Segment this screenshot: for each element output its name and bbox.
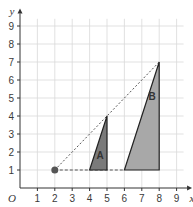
y-tick-label: 4 [8,111,14,122]
x-tick-label: 1 [35,193,41,204]
x-axis-arrow-icon [187,186,192,191]
y-tick-label: 3 [8,129,14,140]
y-tick-label: 7 [8,57,14,68]
coordinate-diagram: AB 123456789123456789Oxy [0,0,193,207]
y-tick-label: 2 [8,147,14,158]
x-tick-label: 3 [69,193,75,204]
x-tick-label: 8 [156,193,162,204]
y-axis-arrow-icon [18,8,23,13]
centre-of-enlargement-point [51,167,58,174]
x-tick-label: 6 [122,193,128,204]
x-tick-label: 5 [104,193,110,204]
x-tick-label: 9 [174,193,180,204]
axis-labels: 123456789123456789Oxy [8,5,193,204]
y-tick-label: 6 [8,75,14,86]
x-tick-label: 2 [52,193,58,204]
x-tick-label: 4 [87,193,93,204]
x-axis-label: x [189,192,193,204]
triangle-label-a: A [96,150,103,161]
triangle-label-b: B [149,91,156,102]
y-tick-label: 5 [8,93,14,104]
origin-label: O [8,192,16,204]
y-tick-label: 9 [8,21,14,32]
y-axis-label: y [9,5,15,17]
y-tick-label: 1 [8,165,14,176]
y-tick-label: 8 [8,39,14,50]
triangle-a [90,116,107,170]
x-tick-label: 7 [139,193,145,204]
